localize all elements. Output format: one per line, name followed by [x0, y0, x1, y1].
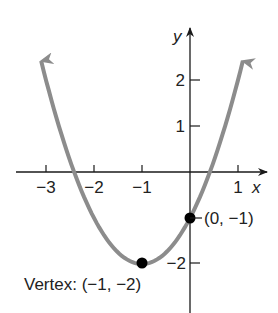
vertex-label: Vertex: (−1, −2)	[24, 275, 141, 294]
vertex-point	[137, 258, 148, 269]
y-tick-label: 2	[176, 71, 185, 90]
parabola-graph: −3 −2 −1 1 2 1 −2 x y (0, −1) Vertex: (−…	[0, 0, 278, 313]
y-tick-label: −2	[167, 254, 186, 273]
x-tick-label: 1	[233, 178, 242, 197]
intercept-label: (0, −1)	[204, 209, 254, 228]
x-tick-label: −2	[84, 178, 103, 197]
x-axis-label: x	[251, 178, 261, 197]
y-tick-label: 1	[176, 117, 185, 136]
parabola-curve	[41, 61, 243, 264]
x-tick-label: −3	[36, 178, 55, 197]
x-tick-label: −1	[132, 178, 151, 197]
y-axis-label: y	[172, 27, 183, 46]
